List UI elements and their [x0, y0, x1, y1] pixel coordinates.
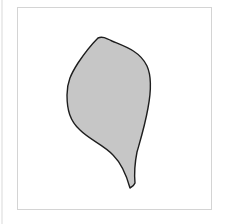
- figure-canvas: [0, 0, 229, 224]
- leaf-shape: [67, 37, 151, 188]
